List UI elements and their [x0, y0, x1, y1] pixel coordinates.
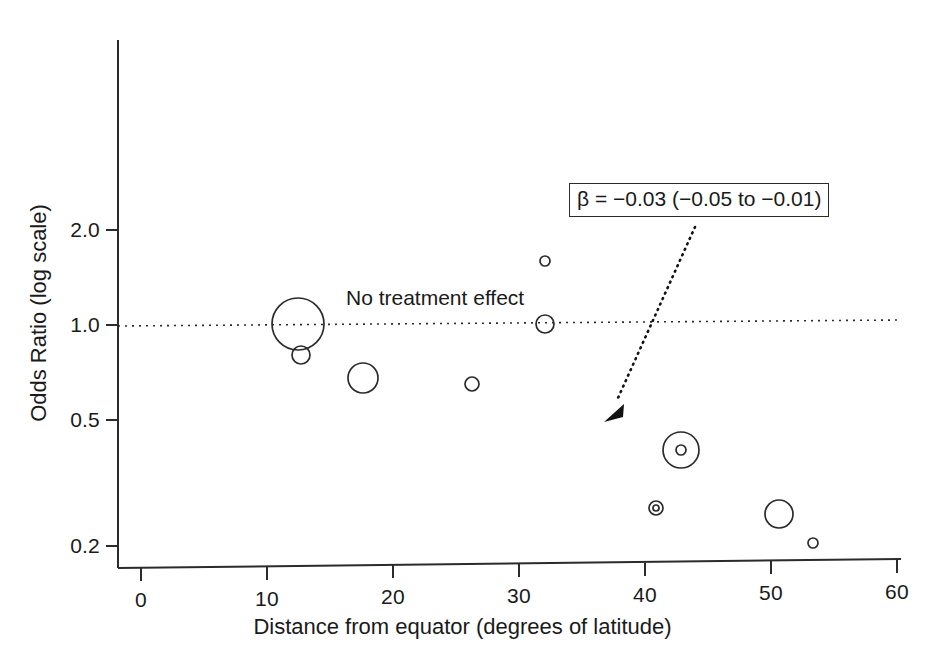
y-tick-label-1.0: 1.0 [44, 313, 100, 337]
x-tick-label-10: 10 [242, 587, 292, 611]
y-axis-title: Odds Ratio (log scale) [26, 163, 52, 463]
annotation-arrow [604, 227, 695, 422]
x-axis-line [118, 559, 901, 568]
data-point-bubble [536, 315, 554, 333]
x-tick-label-0: 0 [116, 588, 166, 612]
x-tick-label-40: 40 [620, 583, 670, 607]
data-point-bubble [808, 538, 818, 548]
data-point-bubble [465, 377, 479, 391]
data-point-bubble-inner [676, 445, 686, 455]
data-point-bubble [348, 363, 378, 393]
no-treatment-effect-reference-line [118, 320, 901, 326]
no-treatment-effect-label: No treatment effect [346, 286, 524, 310]
data-point-bubble-inner [653, 505, 659, 511]
x-tick-label-20: 20 [368, 585, 418, 609]
data-point-bubble [540, 256, 550, 266]
y-tick-label-0.5: 0.5 [44, 408, 100, 432]
annotation-leader-line [618, 227, 695, 398]
data-point-bubble [292, 346, 310, 364]
x-axis-title: Distance from equator (degrees of latitu… [0, 614, 925, 640]
beta-coefficient-annotation-box: β = −0.03 (−0.05 to −0.01) [569, 183, 829, 217]
y-tick-label-0.2: 0.2 [44, 534, 100, 558]
annotation-arrow-head [604, 404, 624, 422]
y-ticks-group [106, 230, 118, 546]
x-tick-label-30: 30 [494, 584, 544, 608]
chart-figure: 2.0 1.0 0.5 0.2 0 10 20 30 40 50 60 Dist… [0, 0, 925, 665]
y-tick-label-2.0: 2.0 [44, 218, 100, 242]
data-point-bubble [649, 501, 663, 515]
x-tick-label-50: 50 [746, 581, 796, 605]
data-point-bubble [663, 432, 699, 468]
x-tick-label-60: 60 [872, 580, 922, 604]
scatter-plot-canvas [0, 0, 925, 665]
data-point-bubble [765, 500, 793, 528]
